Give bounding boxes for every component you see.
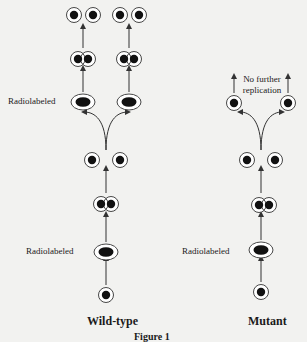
radiolabeled-doublet-icon: [94, 244, 118, 260]
no-further-replication-note: No further replication: [242, 74, 282, 96]
radiolabeled-doublet-icon: [71, 94, 95, 110]
note-line-2: replication: [242, 85, 282, 96]
cell-icon: [67, 8, 82, 23]
radiolabeled-label-lower: Radiolabeled: [26, 246, 73, 256]
cell-icon: [268, 153, 283, 168]
mutant-lineage: [227, 76, 296, 300]
note-line-1: No further: [242, 74, 282, 85]
cell-icon: [132, 8, 147, 23]
radiolabeled-doublet-icon: [117, 94, 141, 110]
wildtype-lineage: [67, 8, 147, 303]
paired-cells-icon: [117, 52, 142, 67]
paired-cells-icon: [94, 197, 119, 212]
cell-icon: [240, 153, 255, 168]
cell-icon: [113, 8, 128, 23]
figure-caption: Figure 1: [134, 331, 170, 342]
paired-cells-icon: [252, 198, 277, 213]
cell-icon: [99, 288, 114, 303]
cell-icon: [85, 153, 100, 168]
radiolabeled-doublet-icon: [249, 242, 273, 258]
cell-icon: [113, 153, 128, 168]
radiolabeled-label-upper: Radiolabeled: [8, 96, 55, 106]
wildtype-title: Wild-type: [87, 314, 138, 329]
cell-icon: [281, 96, 296, 111]
mutant-title: Mutant: [248, 314, 287, 329]
cell-icon: [227, 96, 242, 111]
cell-icon: [254, 285, 269, 300]
cell-icon: [86, 8, 101, 23]
mutant-radiolabeled-label: Radiolabeled: [182, 246, 229, 256]
paired-cells-icon: [71, 52, 96, 67]
